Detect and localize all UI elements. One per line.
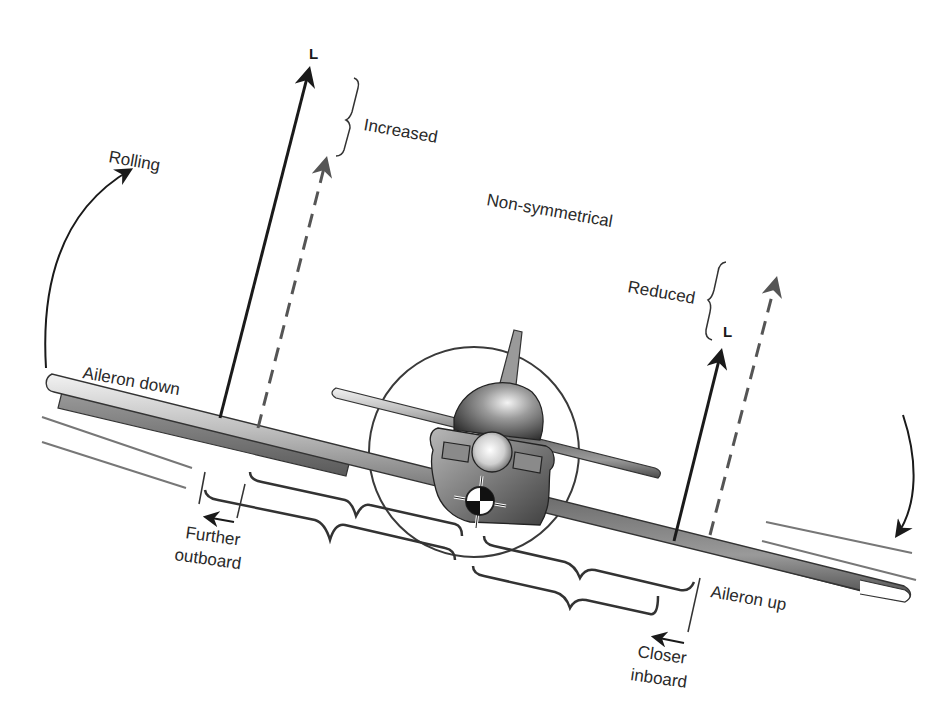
lift-label-left: L — [309, 45, 318, 62]
spinner — [472, 432, 512, 472]
lift-label-right: L — [723, 323, 732, 340]
further-outboard-arrow — [206, 517, 234, 522]
aileron-up-label: Aileron up — [709, 582, 788, 614]
rolling-label: Rolling — [107, 147, 161, 175]
increased-brace — [336, 78, 359, 156]
intake-left — [442, 442, 470, 462]
rolling-arrow-left — [45, 170, 130, 368]
rolling-arrow-right — [897, 415, 914, 535]
closer-inboard-arrow — [654, 637, 684, 643]
lift-arrow-left-dashed — [258, 160, 326, 428]
closer-inboard-label-line2: inboard — [629, 665, 688, 692]
lift-arrow-right-solid — [674, 352, 721, 541]
further-outboard-label-line1: Further — [184, 523, 241, 549]
closer-inboard-label-line1: Closer — [636, 642, 688, 668]
canopy — [454, 383, 543, 440]
lift-arrow-right-dashed — [710, 280, 776, 535]
increased-label: Increased — [362, 115, 439, 147]
aileron-roll-diagram: Rolling L Inc — [0, 0, 952, 721]
vertical-fin — [500, 330, 522, 385]
non-symmetrical-label: Non-symmetrical — [485, 190, 614, 231]
lift-arrow-left-solid — [220, 70, 309, 418]
further-outboard-label-line2: outboard — [173, 545, 242, 573]
reduced-label: Reduced — [626, 277, 696, 308]
aileron-down — [58, 392, 350, 476]
